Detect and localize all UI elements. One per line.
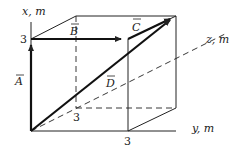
vector-cube-diagram: x, m 3 y, m 3 z, m 3 A B C D <box>0 0 241 152</box>
diagram-canvas: x, m 3 y, m 3 z, m 3 A B C D <box>0 0 241 152</box>
x-axis-label: x, m <box>22 5 46 18</box>
vectors <box>31 19 170 131</box>
vector-b-label: B <box>69 25 78 38</box>
vector-a-label: A <box>14 75 23 88</box>
x-tick-3: 3 <box>20 33 27 46</box>
z-tick-3: 3 <box>73 111 80 124</box>
vector-d-label: D <box>105 77 115 90</box>
vector-c-label: C <box>132 21 141 34</box>
y-axis-label: y, m <box>191 122 214 135</box>
vector-d <box>31 20 170 131</box>
z-axis-label: z, m <box>205 33 229 46</box>
y-tick-3: 3 <box>124 135 131 148</box>
